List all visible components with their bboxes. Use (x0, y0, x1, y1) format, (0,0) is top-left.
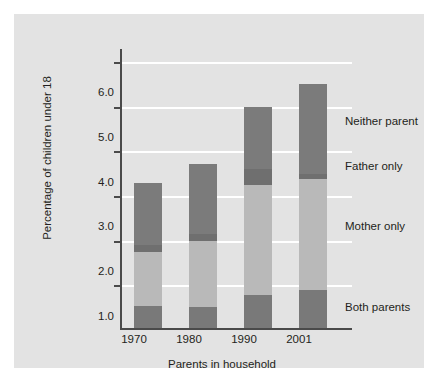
chart-screenshot: Percentage of children under 18 1.0 2.0 … (0, 0, 438, 386)
legend-label-neither-parent: Neither parent (345, 116, 418, 128)
y-tick-label-6: 6.0 (98, 87, 114, 99)
bar-1980-segment-mother-only (189, 241, 217, 307)
bar-1980-segment-both-parents (189, 307, 217, 328)
legend-label-father-only: Father only (345, 161, 403, 173)
gridline-6 (122, 62, 352, 64)
chart-figure-panel: Percentage of children under 18 1.0 2.0 … (14, 14, 424, 368)
tick-1 (114, 285, 120, 287)
x-tick-label-1970: 1970 (104, 334, 164, 346)
x-tick-label-1980: 1980 (159, 334, 219, 346)
bar-1990-segment-neither-parent (244, 107, 272, 169)
legend-label-both-parents: Both parents (345, 302, 410, 314)
bar-1980-segment-neither-parent (189, 164, 217, 234)
bar-1970-segment-both-parents (134, 306, 162, 328)
tick-6 (114, 62, 120, 64)
y-tick-label-1: 1.0 (98, 311, 114, 323)
x-axis-line (120, 328, 352, 330)
bar-1970-segment-neither-parent (134, 183, 162, 245)
bar-1980-segment-father-only (189, 234, 217, 241)
y-tick-label-4: 4.0 (98, 177, 114, 189)
x-tick-label-2001: 2001 (269, 334, 329, 346)
y-axis-title: Percentage of children under 18 (41, 63, 53, 253)
bar-2001-segment-both-parents (299, 290, 327, 328)
bar-2001-segment-mother-only (299, 179, 327, 290)
x-tick-label-1990: 1990 (214, 334, 274, 346)
bar-1970-segment-mother-only (134, 252, 162, 306)
bar-2001[interactable] (299, 84, 327, 328)
tick-2 (114, 241, 120, 243)
x-axis-title: Parents in household (106, 358, 338, 370)
y-tick-label-3: 3.0 (98, 221, 114, 233)
bar-1970-segment-father-only (134, 245, 162, 252)
y-tick-label-2: 2.0 (98, 266, 114, 278)
y-axis-tick-labels: 1.0 2.0 3.0 4.0 5.0 6.0 (70, 49, 114, 330)
bar-1990-segment-both-parents (244, 295, 272, 328)
plot-area (120, 49, 352, 330)
tick-5 (114, 107, 120, 109)
tick-4 (114, 151, 120, 153)
tick-3 (114, 196, 120, 198)
y-axis-line (120, 49, 122, 330)
legend-label-mother-only: Mother only (345, 221, 405, 233)
y-tick-label-5: 5.0 (98, 132, 114, 144)
bar-1990-segment-mother-only (244, 185, 272, 295)
bar-1980[interactable] (189, 164, 217, 328)
bar-1970[interactable] (134, 183, 162, 328)
bar-2001-segment-neither-parent (299, 84, 327, 174)
bar-1990-segment-father-only (244, 169, 272, 185)
bar-1990[interactable] (244, 107, 272, 328)
